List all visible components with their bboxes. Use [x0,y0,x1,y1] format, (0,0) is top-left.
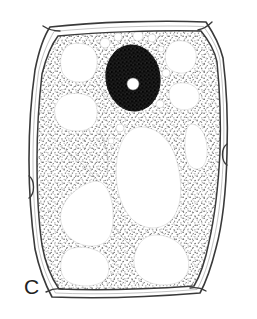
vesicle-9 [108,138,114,144]
vacuole-upper-left-1 [61,43,98,82]
vacuole-upper-right-1 [165,41,196,73]
vesicle-8 [116,124,124,132]
vesicle-7 [156,100,164,108]
vesicle-1 [100,38,110,48]
pit-bottom-right [190,288,206,291]
figure-root: C [0,0,257,319]
vesicle-5 [158,46,164,52]
vacuole-upper-left-2 [55,93,98,131]
vesicle-2 [114,33,122,41]
vacuole-upper-right-2 [169,83,199,110]
panel-label: C [24,276,39,297]
nucleolus [127,78,139,90]
vesicle-6 [162,69,170,77]
plant-cell-illustration [0,0,257,319]
vesicle-3 [133,31,143,41]
vesicle-4 [148,34,156,42]
